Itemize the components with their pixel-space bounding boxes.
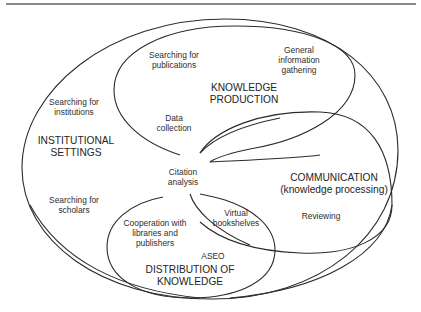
label-searching-for-institutions: Searching for institutions [49, 97, 99, 117]
title-institutional-settings: INSTITUTIONAL SETTINGS [38, 135, 114, 158]
label-searching-for-scholars: Searching for scholars [49, 195, 99, 215]
label-virtual-bookshelves: Virtual bookshelves [213, 208, 260, 228]
title-knowledge-production: KNOWLEDGE PRODUCTION [210, 82, 278, 105]
ellipse-communication-lower [210, 155, 320, 162]
ellipse-knowledge-production-tail [200, 118, 280, 153]
label-searching-for-publications: Searching for publications [149, 50, 199, 70]
label-cooperation-with-libraries: Cooperation with libraries and publisher… [124, 218, 187, 248]
label-citation-analysis: Citation analysis [168, 167, 198, 187]
title-communication: COMMUNICATION (knowledge processing) [280, 172, 388, 195]
label-aseo: ASEO [201, 251, 224, 261]
label-general-information-gathering: General information gathering [278, 45, 319, 75]
label-data-collection: Data collection [157, 113, 192, 133]
title-distribution-of-knowledge: DISTRIBUTION OF KNOWLEDGE [146, 264, 235, 287]
label-reviewing: Reviewing [302, 211, 341, 221]
